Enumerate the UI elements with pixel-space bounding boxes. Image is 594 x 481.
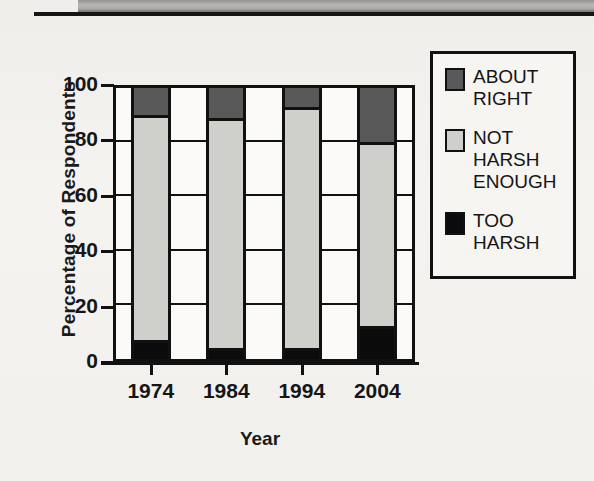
- x-axis-title: Year: [105, 428, 415, 450]
- bar-segment-not-harsh-2004: [360, 145, 394, 329]
- y-tick-label-60: 60: [18, 183, 98, 207]
- scan-artifact-rule: [34, 12, 594, 16]
- y-tick-label-100: 100: [18, 72, 98, 96]
- chart-legend: ABOUT RIGHTNOT HARSH ENOUGHTOO HARSH: [430, 51, 576, 279]
- chart-figure: Percentage of Respondents Year 020406080…: [0, 0, 594, 481]
- x-tick-mark-1984: [225, 362, 228, 375]
- legend-item-not-harsh[interactable]: NOT HARSH ENOUGH: [445, 127, 573, 193]
- legend-item-too-harsh[interactable]: TOO HARSH: [445, 210, 573, 254]
- bar-segment-too-harsh-1994: [285, 351, 319, 359]
- x-tick-mark-1974: [150, 362, 153, 375]
- too-harsh-swatch: [445, 212, 465, 235]
- y-tick-label-20: 20: [18, 294, 98, 318]
- bar-1974: [131, 88, 171, 359]
- x-tick-mark-1994: [301, 362, 304, 375]
- bar-segment-about-right-2004: [360, 88, 394, 145]
- x-tick-label-2004: 2004: [337, 379, 417, 403]
- y-tick-label-0: 0: [18, 349, 98, 373]
- y-tick-label-40: 40: [18, 238, 98, 262]
- bar-segment-about-right-1974: [134, 88, 168, 118]
- bar-segment-too-harsh-1974: [134, 343, 168, 359]
- bar-segment-about-right-1984: [209, 88, 243, 121]
- x-axis-line: [101, 362, 419, 365]
- legend-item-about-right[interactable]: ABOUT RIGHT: [445, 66, 573, 110]
- bar-segment-not-harsh-1974: [134, 118, 168, 343]
- bar-segment-too-harsh-2004: [360, 329, 394, 359]
- y-tick-label-80: 80: [18, 127, 98, 151]
- bar-1984: [206, 88, 246, 359]
- bar-segment-not-harsh-1994: [285, 110, 319, 351]
- bar-segment-too-harsh-1984: [209, 351, 243, 359]
- legend-label-0: ABOUT RIGHT: [473, 66, 538, 110]
- legend-label-1: NOT HARSH ENOUGH: [473, 127, 556, 193]
- bar-segment-not-harsh-1984: [209, 121, 243, 351]
- about-right-swatch: [445, 68, 465, 91]
- x-tick-label-1994: 1994: [262, 379, 342, 403]
- bar-1994: [282, 88, 322, 359]
- x-tick-mark-2004: [376, 362, 379, 375]
- legend-label-2: TOO HARSH: [473, 210, 540, 254]
- plot-area: [113, 85, 415, 362]
- bar-2004: [357, 88, 397, 359]
- bar-segment-about-right-1994: [285, 88, 319, 110]
- x-tick-label-1984: 1984: [186, 379, 266, 403]
- x-tick-label-1974: 1974: [111, 379, 191, 403]
- not-harsh-swatch: [445, 129, 465, 152]
